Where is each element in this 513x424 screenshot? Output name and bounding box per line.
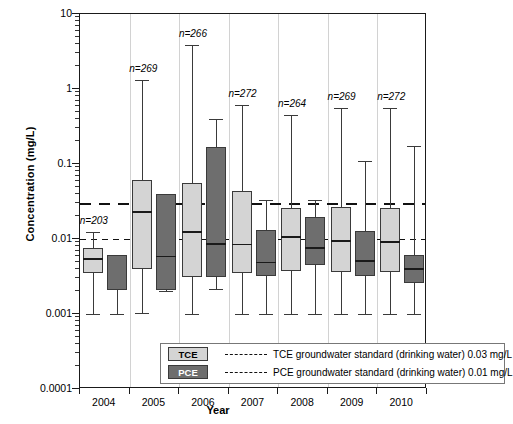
- box-iqr: [83, 248, 103, 273]
- whisker-cap-lower: [284, 314, 298, 315]
- reference-line-pce-standard: [80, 239, 425, 240]
- x-tick-label-2009: 2009: [340, 396, 363, 408]
- whisker-cap-upper: [209, 119, 223, 120]
- whisker-upper: [291, 115, 292, 208]
- whisker-lower: [390, 272, 391, 314]
- annotation-sample-size-2004: n=203: [80, 215, 108, 226]
- legend-label-tce: TCE groundwater standard (drinking water…: [273, 347, 512, 362]
- whisker-cap-upper: [185, 45, 199, 46]
- whisker-lower: [216, 277, 217, 289]
- annotation-sample-size-2010: n=272: [377, 91, 405, 102]
- x-tick-label-2007: 2007: [241, 396, 264, 408]
- whisker-cap-lower: [383, 314, 397, 315]
- whisker-upper: [242, 105, 243, 191]
- whisker-lower: [341, 272, 342, 314]
- whisker-cap-upper: [135, 80, 149, 81]
- box-iqr: [132, 180, 152, 269]
- y-tick-label: 10: [60, 7, 72, 19]
- whisker-lower: [242, 273, 243, 314]
- y-tick-major: [72, 388, 79, 389]
- whisker-cap-upper: [86, 232, 100, 233]
- y-tick-label: 0.001: [46, 307, 72, 319]
- x-tick: [178, 388, 179, 394]
- box-iqr: [206, 147, 226, 277]
- x-tick-label-2005: 2005: [142, 396, 165, 408]
- y-tick-major: [72, 313, 79, 314]
- whisker-cap-upper: [334, 108, 348, 109]
- whisker-cap-lower: [334, 314, 348, 315]
- legend-label-pce: PCE groundwater standard (drinking water…: [273, 365, 513, 380]
- category-separator: [278, 14, 279, 387]
- median-line: [156, 256, 176, 258]
- x-tick: [327, 388, 328, 394]
- median-line: [380, 241, 400, 243]
- median-line: [256, 262, 276, 264]
- y-tick-major: [72, 238, 79, 239]
- y-tick-label: 0.0001: [40, 382, 72, 394]
- median-line: [355, 260, 375, 262]
- box-iqr: [404, 255, 424, 283]
- median-line: [206, 243, 226, 245]
- whisker-lower: [414, 283, 415, 314]
- whisker-cap-lower: [135, 313, 149, 314]
- whisker-cap-upper: [407, 146, 421, 147]
- legend-line-tce: [225, 354, 267, 355]
- x-tick-label-2010: 2010: [390, 396, 413, 408]
- box-iqr: [355, 231, 375, 276]
- legend-swatch-tce: TCE: [168, 347, 208, 361]
- whisker-cap-lower: [159, 291, 173, 292]
- whisker-cap-upper: [358, 161, 372, 162]
- x-tick: [376, 388, 377, 394]
- legend-row-pce: PCE PCE groundwater standard (drinking w…: [161, 365, 504, 383]
- x-tick: [277, 388, 278, 394]
- whisker-lower: [365, 276, 366, 314]
- x-tick-label-2006: 2006: [191, 396, 214, 408]
- y-tick-label: 0.01: [52, 232, 72, 244]
- annotation-sample-size-2007: n=272: [228, 88, 256, 99]
- y-tick-major: [72, 13, 79, 14]
- median-line: [404, 268, 424, 270]
- whisker-cap-upper: [284, 115, 298, 116]
- whisker-cap-lower: [209, 289, 223, 290]
- whisker-lower: [93, 273, 94, 314]
- whisker-upper: [390, 108, 391, 208]
- whisker-cap-upper: [383, 108, 397, 109]
- x-tick: [426, 388, 427, 394]
- box-iqr: [305, 217, 325, 265]
- whisker-cap-lower: [358, 314, 372, 315]
- whisker-cap-lower: [235, 314, 249, 315]
- whisker-cap-upper: [259, 200, 273, 201]
- whisker-upper: [216, 119, 217, 148]
- category-separator: [377, 14, 378, 387]
- reference-line-tce-standard: [80, 203, 425, 204]
- annotation-sample-size-2006: n=266: [179, 28, 207, 39]
- whisker-cap-upper: [308, 200, 322, 201]
- annotation-sample-size-2005: n=269: [129, 63, 157, 74]
- median-line: [182, 231, 202, 233]
- x-tick-label-2008: 2008: [290, 396, 313, 408]
- annotation-sample-size-2009: n=269: [328, 91, 356, 102]
- box-iqr: [256, 230, 276, 276]
- whisker-upper: [142, 80, 143, 179]
- box-iqr: [156, 194, 176, 290]
- x-axis-title: Year: [0, 404, 436, 416]
- annotation-sample-size-2008: n=264: [278, 98, 306, 109]
- legend: TCE TCE groundwater standard (drinking w…: [160, 343, 505, 384]
- whisker-upper: [365, 161, 366, 231]
- whisker-lower: [142, 269, 143, 314]
- legend-row-tce: TCE TCE groundwater standard (drinking w…: [161, 347, 504, 365]
- y-tick-major: [72, 88, 79, 89]
- median-line: [132, 211, 152, 213]
- box-iqr: [182, 183, 202, 277]
- whisker-cap-lower: [185, 314, 199, 315]
- whisker-cap-lower: [110, 314, 124, 315]
- box-iqr: [107, 255, 127, 290]
- category-separator: [328, 14, 329, 387]
- x-tick: [228, 388, 229, 394]
- whisker-lower: [291, 271, 292, 314]
- whisker-lower: [315, 265, 316, 314]
- legend-swatch-pce: PCE: [168, 365, 208, 379]
- whisker-lower: [166, 290, 167, 292]
- x-tick: [79, 388, 80, 394]
